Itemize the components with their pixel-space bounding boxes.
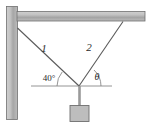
ceiling-beam: [17, 12, 145, 22]
cable-2-label: 2: [86, 41, 92, 53]
angle-right-label: θ: [95, 71, 100, 82]
physics-diagram: 1 2 40° θ: [0, 0, 150, 126]
angle-arc-left: [57, 72, 62, 86]
cable-1-label: 1: [41, 42, 47, 54]
suspended-block: [70, 106, 89, 122]
wall-column: [7, 7, 18, 120]
cable-2: [79, 22, 123, 87]
angle-left-label: 40°: [43, 73, 56, 83]
